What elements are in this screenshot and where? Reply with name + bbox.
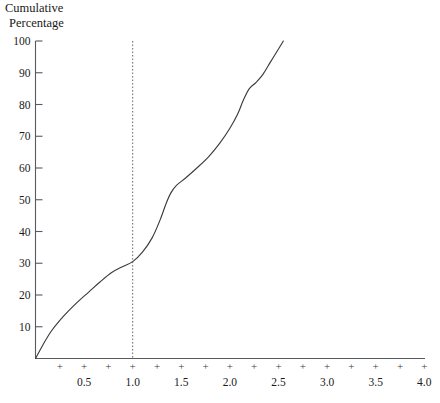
chart-title-line-1: Cumulative <box>5 1 64 15</box>
x-tick-label: 1.0 <box>126 376 141 388</box>
chart-background <box>0 0 440 403</box>
cumulative-percentage-chart: Cumulative Percentage 102030405060708090… <box>0 0 440 403</box>
y-tick-label: 90 <box>19 67 31 79</box>
x-tick-label: 2.0 <box>223 376 238 388</box>
x-tick-mark: + <box>105 360 111 372</box>
x-tick-label: 3.0 <box>320 376 335 388</box>
x-tick-label: 1.5 <box>174 376 189 388</box>
x-tick-mark: + <box>178 360 184 372</box>
x-tick-mark: + <box>81 360 87 372</box>
y-tick-label: 50 <box>19 194 31 206</box>
x-tick-mark: + <box>300 360 306 372</box>
x-tick-mark: + <box>397 360 403 372</box>
y-tick-label: 20 <box>19 289 31 301</box>
x-tick-mark: + <box>324 360 330 372</box>
y-tick-label: 100 <box>13 35 31 47</box>
x-tick-mark: + <box>421 360 427 372</box>
x-tick-mark: + <box>373 360 379 372</box>
y-tick-label: 80 <box>19 99 31 111</box>
x-tick-mark: + <box>57 360 63 372</box>
y-tick-label: 10 <box>19 321 31 333</box>
y-tick-label: 30 <box>19 257 31 269</box>
x-tick-label: 0.5 <box>77 376 92 388</box>
y-tick-label: 60 <box>19 162 31 174</box>
x-tick-mark: + <box>348 360 354 372</box>
x-tick-mark: + <box>251 360 257 372</box>
x-tick-mark: + <box>227 360 233 372</box>
chart-title-line-2: Percentage <box>9 16 64 30</box>
x-tick-mark: + <box>130 360 136 372</box>
chart-title: Cumulative Percentage <box>5 1 64 30</box>
y-tick-label: 40 <box>19 226 31 238</box>
x-tick-label: 4.0 <box>417 376 432 388</box>
chart-container: Cumulative Percentage 102030405060708090… <box>0 0 440 403</box>
y-tick-label: 70 <box>19 130 31 142</box>
x-tick-mark: + <box>202 360 208 372</box>
x-tick-mark: + <box>154 360 160 372</box>
x-tick-label: 2.5 <box>271 376 286 388</box>
x-tick-mark: + <box>275 360 281 372</box>
x-tick-label: 3.5 <box>369 376 384 388</box>
